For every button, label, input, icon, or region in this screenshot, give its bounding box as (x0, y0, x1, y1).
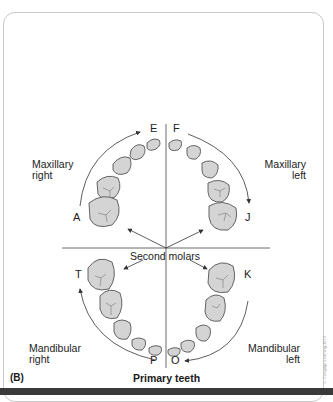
tooth (208, 263, 235, 293)
tooth-letter-t: T (75, 268, 82, 280)
tooth-letter-o: O (171, 354, 180, 366)
tooth (114, 320, 131, 339)
tooth (147, 139, 160, 150)
bottom-bar (0, 388, 333, 395)
label-maxillary-right: Maxillary right (32, 159, 73, 181)
label-line: right (29, 354, 81, 365)
label-mandibular-left: Mandibular left (244, 343, 300, 365)
mandibular-right-teeth (88, 259, 162, 355)
tooth-letter-j: J (245, 211, 251, 223)
label-line: right (32, 170, 73, 181)
tooth-letter-a: A (73, 211, 80, 223)
tooth (181, 340, 195, 352)
tooth (196, 325, 211, 341)
tooth (209, 202, 237, 230)
credit-text: © Cengage Learning 2013 (322, 325, 330, 385)
arrow-to-upper-left-molar (166, 230, 203, 248)
label-maxillary-left: Maxillary left (256, 159, 306, 181)
label-line: left (256, 170, 306, 181)
figure-caption: Primary teeth (0, 372, 333, 384)
tooth-letter-e: E (150, 122, 157, 134)
tooth (130, 145, 145, 160)
tooth (187, 146, 201, 160)
tooth-letter-k: K (244, 268, 251, 280)
tooth (97, 176, 120, 199)
second-molars-label: Second molars (130, 251, 200, 262)
tooth (89, 197, 119, 227)
tooth-letter-p: P (150, 354, 157, 366)
mandibular-left-teeth (168, 263, 235, 356)
tooth-letter-f: F (173, 122, 180, 134)
label-line: left (244, 354, 300, 365)
tooth (208, 180, 229, 202)
label-mandibular-right: Mandibular right (29, 343, 81, 365)
tooth (132, 338, 146, 350)
tooth (113, 157, 131, 175)
tooth (88, 259, 114, 290)
arrow-to-upper-right-molar (128, 229, 166, 248)
tooth (169, 140, 182, 151)
tooth (205, 295, 225, 321)
maxillary-left-teeth (169, 140, 237, 230)
tooth (202, 161, 218, 178)
